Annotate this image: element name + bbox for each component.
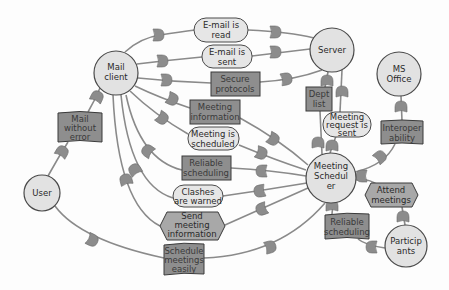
dependency-marker-icon xyxy=(140,143,156,159)
edge-mailclient-emailsent xyxy=(137,57,202,64)
dependency-marker-icon xyxy=(256,165,267,177)
goal-meeting-scheduled[interactable]: Meeting is scheduled xyxy=(188,127,239,150)
edge-reliable1-mailclient xyxy=(126,95,182,170)
actor-user[interactable]: User xyxy=(24,175,60,211)
resource-meeting-information[interactable]: Meeting information xyxy=(190,100,240,124)
resource-label: ability xyxy=(389,133,415,143)
goal-label: sent xyxy=(338,128,357,138)
actor-ms-office[interactable]: MS Office xyxy=(377,52,421,96)
resource-dept-list[interactable]: Dept list xyxy=(306,87,332,111)
actor-label: User xyxy=(32,188,52,198)
dependency-marker-icon xyxy=(154,110,170,126)
dependency-marker-icon xyxy=(161,74,172,86)
task-label: Attend xyxy=(377,185,405,195)
goal-label: E-mail is xyxy=(203,20,240,30)
actor-label: ants xyxy=(397,246,416,256)
goal-email-read[interactable]: E-mail is read xyxy=(194,18,248,42)
goal-email-sent[interactable]: E-mail is sent xyxy=(202,45,252,68)
task-label: information xyxy=(167,229,216,239)
resource-label: easily xyxy=(172,264,197,274)
goal-label: scheduled xyxy=(191,139,235,149)
dependency-diagram: Mail client Server MS Office User Meetin… xyxy=(0,0,449,290)
dependency-marker-icon xyxy=(326,140,338,151)
dependency-marker-icon xyxy=(253,184,266,198)
actor-server[interactable]: Server xyxy=(310,28,354,72)
resource-mail-without-error[interactable]: Mail without error xyxy=(58,112,102,143)
dependency-marker-icon xyxy=(356,170,367,182)
edge-mailclient-secure xyxy=(138,78,211,83)
resource-schedule-meetings-easily[interactable]: Schedule meetings easily xyxy=(164,243,204,275)
actor-label: Server xyxy=(318,45,346,55)
resource-label: information xyxy=(190,112,239,122)
dependency-marker-icon xyxy=(254,146,268,161)
dependency-marker-icon xyxy=(372,149,388,165)
task-send-meeting-information[interactable]: Send meeting information xyxy=(160,211,225,240)
actor-label: Particip xyxy=(390,236,422,246)
resource-label: Secure xyxy=(220,74,249,84)
dependency-marker-icon xyxy=(397,211,409,222)
resource-secure-protocols[interactable]: Secure protocols xyxy=(211,72,260,96)
resource-label: scheduling xyxy=(324,227,370,237)
goal-label: E-mail is xyxy=(209,47,246,57)
resource-label: protocols xyxy=(215,84,255,94)
dependency-marker-icon xyxy=(270,46,281,58)
edge-scheduler-deptlist xyxy=(320,111,322,154)
dependency-marker-icon xyxy=(157,55,168,67)
dependency-marker-icon xyxy=(321,75,333,86)
resource-label: Reliable xyxy=(330,217,364,227)
resource-reliable-scheduling-participants[interactable]: Reliable scheduling xyxy=(324,213,370,239)
edge-meetsched-scheduler xyxy=(239,145,306,170)
actor-label: er xyxy=(327,181,336,191)
goal-label: are warned xyxy=(174,196,222,206)
task-label: meetings xyxy=(371,195,411,205)
dependency-marker-icon xyxy=(254,202,268,217)
actor-label: Mail xyxy=(107,62,124,72)
actor-mail-client[interactable]: Mail client xyxy=(94,51,138,95)
resource-reliable-scheduling[interactable]: Reliable scheduling xyxy=(182,156,231,180)
goal-label: sent xyxy=(218,57,237,67)
resource-interoperability[interactable]: Interoper ability xyxy=(381,120,423,144)
resource-label: Interoper xyxy=(382,123,422,133)
dependency-marker-icon xyxy=(270,26,281,38)
resource-label: Reliable xyxy=(189,158,223,168)
actor-label: MS xyxy=(393,64,406,74)
goal-label: read xyxy=(211,30,230,40)
diagram-svg: Mail client Server MS Office User Meetin… xyxy=(0,0,449,290)
dependency-marker-icon xyxy=(366,241,377,253)
dependency-marker-icon xyxy=(395,101,407,112)
actor-label: client xyxy=(104,72,128,82)
goal-clashes-warned[interactable]: Clashes are warned xyxy=(173,185,223,207)
edge-scheduler-reliable1 xyxy=(231,168,306,176)
actor-meeting-scheduler[interactable]: Meeting Schedul er xyxy=(306,153,356,203)
resource-label: Dept xyxy=(309,89,330,99)
actor-label: Schedul xyxy=(314,171,348,181)
actor-label: Meeting xyxy=(314,161,348,171)
goal-meeting-request-sent[interactable]: Meeting request is sent xyxy=(323,112,371,138)
edge-mailclient-meetinfo xyxy=(135,86,190,108)
dependency-marker-icon xyxy=(280,72,293,86)
edge-scheduler-interop xyxy=(355,144,395,172)
dependency-marker-icon xyxy=(89,89,105,104)
dependency-marker-icon xyxy=(153,29,164,41)
edge-user-scheduleeasy xyxy=(55,206,164,258)
resource-label: scheduling xyxy=(183,168,229,178)
dependency-marker-icon xyxy=(54,144,70,160)
actor-participants[interactable]: Particip ants xyxy=(385,225,427,267)
dependency-marker-icon xyxy=(85,232,100,248)
dependency-marker-icon xyxy=(312,137,324,148)
task-attend-meetings[interactable]: Attend meetings xyxy=(365,183,418,207)
dependency-marker-icon xyxy=(266,131,282,147)
goal-label: Meeting is xyxy=(191,129,235,139)
resource-label: Meeting xyxy=(198,102,232,112)
dependency-marker-icon xyxy=(336,86,348,97)
actor-label: Office xyxy=(387,74,412,84)
resource-label: list xyxy=(313,99,326,109)
resource-label: error xyxy=(70,132,91,142)
